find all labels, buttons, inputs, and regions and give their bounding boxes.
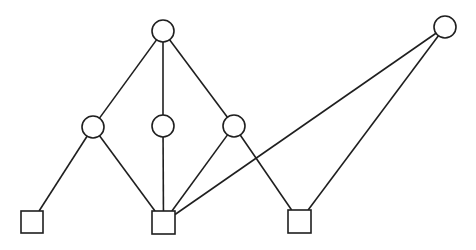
edge-c_mid_left-s_center [100, 136, 155, 211]
square-node-s_center [152, 211, 175, 234]
graph-diagram [0, 0, 476, 250]
edge-c_top-c_mid_left [99, 40, 156, 118]
edge-c_top-c_mid_right [170, 40, 228, 117]
circle-node-c_mid_left [82, 116, 104, 138]
nodes-group [21, 16, 456, 234]
circle-node-c_mid_center [152, 115, 174, 137]
square-node-s_right [288, 210, 311, 233]
circle-node-c_top [152, 20, 174, 42]
square-node-s_left [21, 211, 43, 233]
circle-node-c_mid_right [223, 115, 245, 137]
edge-c_right-s_center [175, 33, 436, 214]
circle-node-c_right [434, 16, 456, 38]
edge-c_right-s_right [308, 36, 438, 210]
edge-c_mid_right-s_center [172, 135, 228, 211]
edge-c_mid_right-s_right [240, 135, 291, 210]
edge-c_mid_left-s_left [39, 136, 87, 211]
